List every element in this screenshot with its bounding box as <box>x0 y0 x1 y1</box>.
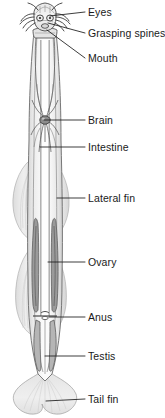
arrow-worm-illustration <box>0 0 165 418</box>
label-anus: Anus <box>88 312 112 323</box>
label-mouth: Mouth <box>88 53 118 64</box>
anatomy-figure: Eyes Grasping spines Mouth Brain Intesti… <box>0 0 165 418</box>
testis-pair <box>34 320 56 374</box>
label-testis: Testis <box>88 351 115 362</box>
label-grasping-spines: Grasping spines <box>88 28 165 39</box>
label-intestine: Intestine <box>88 142 129 153</box>
intestine <box>41 40 49 316</box>
label-lateral-fin: Lateral fin <box>88 193 135 204</box>
label-tail-fin: Tail fin <box>88 394 119 405</box>
label-brain: Brain <box>88 115 113 126</box>
label-ovary: Ovary <box>88 257 117 268</box>
label-eyes: Eyes <box>88 7 112 18</box>
mouth <box>41 24 48 28</box>
